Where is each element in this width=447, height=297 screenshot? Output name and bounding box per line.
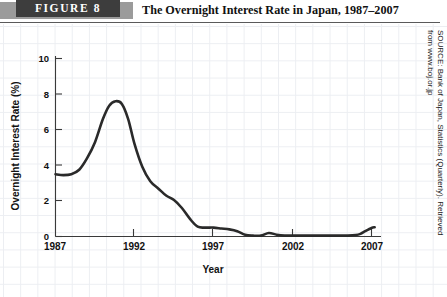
y-axis-title: Overnight Interest Rate (%) [10,82,21,211]
x-axis-tick-labels: 1987 1992 1997 2002 2007 [44,241,384,252]
x-tick-label-1997: 1997 [202,241,225,252]
y-axis-tick-labels: 10 8 6 4 2 0 [38,53,49,242]
x-tick-label-1992: 1992 [123,241,146,252]
source-line-1: SOURCE: Bank of Japan, Statistics (Quart… [436,30,446,292]
data-series-line [56,101,375,236]
source-note-text: SOURCE: Bank of Japan, Statistics (Quart… [426,30,445,292]
x-axis-title: Year [202,264,223,275]
y-tick-label-8: 8 [44,89,49,100]
y-axis-ticks [56,59,63,237]
y-tick-label-4: 4 [44,160,50,171]
x-tick-label-2007: 2007 [361,241,384,252]
figure-number-label: FIGURE 8 [16,0,120,17]
figure-title: The Overnight Interest Rate in Japan, 19… [142,2,399,19]
chart-container: 10 8 6 4 2 0 1987 1992 1997 2002 2007 Ye… [0,24,390,297]
source-line-2: from www.boj.or.jp [426,30,436,292]
source-note: SOURCE: Bank of Japan, Statistics (Quart… [429,30,445,292]
y-tick-label-6: 6 [44,124,49,135]
x-tick-label-2002: 2002 [282,241,305,252]
y-tick-label-2: 2 [44,195,49,206]
y-tick-label-10: 10 [38,53,49,64]
line-chart: 10 8 6 4 2 0 1987 1992 1997 2002 2007 Ye… [0,24,390,297]
figure-header: FIGURE 8 The Overnight Interest Rate in … [0,0,447,24]
x-tick-label-1987: 1987 [44,241,67,252]
header-divider [0,22,440,23]
